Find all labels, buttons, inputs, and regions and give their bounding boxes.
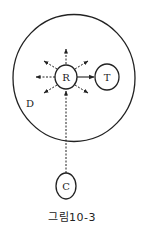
node-r-label: R (62, 72, 70, 83)
node-t-label: T (104, 72, 111, 83)
arrow-up-left-icon (44, 61, 57, 69)
arrow-down-left-icon (44, 85, 57, 93)
node-c-label: C (62, 181, 70, 192)
arrow-down-right-icon (75, 85, 88, 93)
diagram-figure: D R T C (0, 0, 144, 229)
figure-caption: 그림10-3 (0, 208, 144, 224)
arrow-up-right-icon (75, 61, 88, 69)
region-d-label: D (26, 98, 34, 109)
